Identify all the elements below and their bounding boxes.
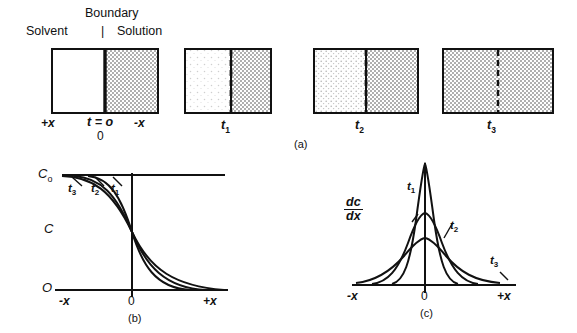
cell-t1-time-label: t1	[221, 119, 230, 134]
cell-t0-time-label: t = o	[87, 116, 113, 129]
panel-b-curve-label-t2: t2	[91, 183, 99, 197]
cell-t2-time-label: t2	[355, 119, 364, 134]
solvent-label: Solvent	[26, 25, 68, 38]
panel-c-graphics	[352, 163, 516, 293]
panel-c-x-center-label: 0	[421, 290, 428, 302]
panel-b-curve-t2-sub: 2	[95, 188, 99, 197]
leader-c-t3	[500, 272, 508, 280]
panel-b-c-label: C	[44, 222, 53, 235]
panel-a-caption: (a)	[294, 139, 307, 150]
cell-t2	[314, 49, 418, 113]
panel-b-curve-t3-sub: 3	[72, 188, 76, 197]
cell-t2-time-sub: 2	[359, 125, 364, 135]
panel-b-origin-label: O	[42, 281, 52, 294]
cell-t1	[185, 49, 271, 113]
panel-c-curve-t3-sub: 3	[494, 260, 498, 269]
cell-t3	[443, 49, 553, 113]
panel-b-curve-label-t1: t1	[111, 183, 119, 197]
solution-label: Solution	[117, 25, 162, 38]
cell-t0-right-axis-label: -x	[134, 117, 145, 129]
panel-b-c-zero-letter: C	[38, 166, 47, 181]
panel-b-curve-t1-sub: 1	[115, 188, 119, 197]
panel-c-curve-t1-sub: 1	[411, 186, 415, 195]
panel-c-curve-label-t1: t1	[407, 181, 415, 195]
cell-t3-time-label: t3	[487, 119, 496, 134]
panel-c-caption: (c)	[420, 308, 433, 319]
panel-c-curve-label-t2: t2	[450, 220, 458, 234]
panel-c-x-left-label: -x	[347, 290, 358, 302]
cell-t0-left-axis-label: +x	[41, 117, 55, 129]
figure-graphics	[0, 0, 577, 333]
panel-c-y-axis-label: dc dx	[344, 196, 363, 223]
panel-b-c-zero-sub: o	[47, 174, 52, 184]
panel-b-curve-label-t3: t3	[68, 183, 76, 197]
cell-t1-time-sub: 1	[225, 125, 230, 135]
panel-c-x-right-label: +x	[497, 290, 511, 302]
panel-b-x-right-label: +x	[203, 295, 217, 307]
panel-b-x-left-label: -x	[59, 295, 70, 307]
curve-b-t3	[62, 176, 224, 290]
panel-b-c-zero-label: Co	[38, 167, 52, 184]
diffusion-figure: Boundary Solvent | Solution +x t = o 0 -…	[0, 0, 577, 333]
cell-t0	[52, 49, 158, 113]
cell-t0-origin-label: 0	[97, 130, 104, 142]
curve-c-t3	[356, 238, 500, 283]
boundary-divider: |	[101, 25, 104, 38]
panel-c-y-numerator: dc	[344, 196, 363, 210]
boundary-label: Boundary	[85, 7, 139, 20]
panel-b-x-center-label: 0	[128, 295, 135, 307]
panel-b-caption: (b)	[128, 313, 141, 324]
cell-t3-time-sub: 3	[491, 125, 496, 135]
panel-c-y-denominator: dx	[344, 210, 363, 223]
panel-c-curve-label-t3: t3	[490, 255, 498, 269]
curve-b-t1	[88, 176, 190, 290]
panel-c-curve-t2-sub: 2	[454, 225, 458, 234]
panel-b-graphics	[55, 173, 228, 297]
